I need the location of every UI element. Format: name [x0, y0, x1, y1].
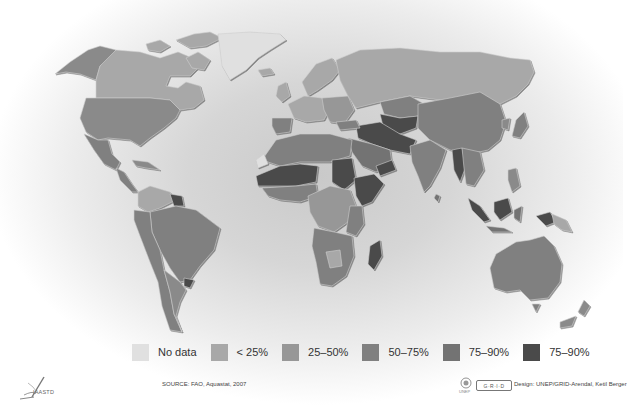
legend-item-75-90-dark: 75–90% — [523, 344, 589, 361]
legend-swatch — [443, 344, 460, 361]
region-caribbean[interactable] — [132, 160, 160, 170]
region-papua-new-guinea[interactable] — [552, 214, 572, 232]
grid-logo: G·R·I·D — [476, 380, 512, 391]
region-philippines[interactable] — [508, 168, 520, 192]
source-credit: SOURCE: FAO, Aquastat, 2007 — [162, 381, 246, 387]
region-sudan[interactable] — [332, 158, 356, 190]
legend-label: 50–75% — [388, 346, 428, 358]
region-borneo[interactable] — [494, 198, 512, 220]
unep-label: UNEP — [459, 389, 470, 394]
region-uk[interactable] — [276, 82, 290, 102]
region-iberia[interactable] — [272, 118, 292, 134]
legend-label: 75–90% — [469, 346, 509, 358]
legend-swatch — [362, 344, 379, 361]
region-uruguay[interactable] — [184, 278, 194, 288]
legend-label: No data — [158, 346, 197, 358]
legend-swatch — [211, 344, 228, 361]
region-guianas[interactable] — [170, 194, 184, 206]
legend-swatch — [282, 344, 299, 361]
region-new-zealand[interactable] — [560, 300, 590, 328]
legend-item-75-90: 75–90% — [443, 344, 509, 361]
region-horn-of-africa[interactable] — [354, 174, 384, 206]
legend-swatch — [523, 344, 540, 361]
map-legend: No data < 25% 25–50% 50–75% 75–90% 75–90… — [132, 343, 604, 361]
region-java[interactable] — [486, 226, 512, 232]
iaastd-logo-icon — [14, 375, 74, 401]
region-madagascar[interactable] — [368, 240, 382, 270]
region-sumatra[interactable] — [468, 198, 490, 222]
design-credit: Design: UNEP/GRID-Arendal, Ketil Berger — [514, 381, 627, 387]
region-japan[interactable] — [512, 112, 528, 138]
region-sulawesi[interactable] — [514, 206, 522, 222]
legend-label: < 25% — [237, 346, 269, 358]
region-iceland[interactable] — [258, 68, 274, 76]
legend-item-no-data: No data — [132, 344, 197, 361]
region-sahel[interactable] — [256, 164, 318, 186]
legend-item-50-75: 50–75% — [362, 344, 428, 361]
region-eastern-europe[interactable] — [322, 96, 354, 124]
legend-item-lt25: < 25% — [211, 344, 269, 361]
region-india[interactable] — [410, 140, 446, 192]
region-australia[interactable] — [490, 236, 562, 300]
region-greenland[interactable] — [218, 32, 286, 80]
region-russia[interactable] — [336, 48, 534, 108]
region-tasmania[interactable] — [532, 304, 540, 312]
region-korea[interactable] — [502, 118, 510, 130]
region-central-america[interactable] — [116, 168, 138, 192]
iaastd-label: IAASTD — [33, 389, 54, 395]
region-scandinavia[interactable] — [302, 58, 340, 96]
region-southeast-asia[interactable] — [462, 148, 484, 186]
region-turkey[interactable] — [336, 120, 360, 130]
legend-label: 25–50% — [308, 346, 348, 358]
legend-label: 75–90% — [549, 346, 589, 358]
legend-item-25-50: 25–50% — [282, 344, 348, 361]
legend-swatch — [132, 344, 149, 361]
region-sri-lanka[interactable] — [434, 194, 440, 202]
